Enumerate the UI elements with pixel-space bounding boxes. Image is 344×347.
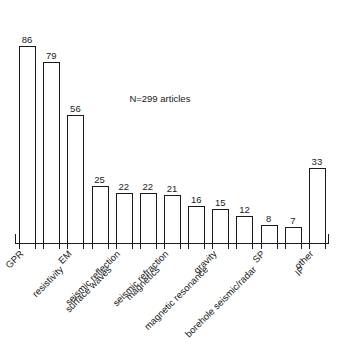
value-label-magnetics: 22 — [143, 181, 154, 192]
bar-resistivity — [44, 63, 60, 244]
bar-gravity — [213, 209, 229, 243]
value-label-other: 33 — [312, 156, 323, 167]
chart-svg: 867956252222211615128733 GPRresistivityE… — [0, 0, 344, 347]
category-label-sp: SP — [250, 248, 267, 265]
bar-magnetic-resonance — [189, 207, 205, 244]
value-label-surface-waves: 25 — [94, 174, 105, 185]
bar-gpr — [20, 47, 36, 244]
bars-group — [20, 47, 326, 244]
value-label-gravity: 15 — [215, 197, 226, 208]
bar-other — [310, 168, 326, 244]
bar-seismic-refraction — [165, 196, 181, 244]
bar-em — [68, 116, 84, 244]
value-label-seismic-refraction: 21 — [167, 183, 178, 194]
value-label-borehole-seismic-radar: 12 — [239, 204, 250, 215]
bar-ip — [286, 228, 302, 244]
value-label-em: 56 — [70, 103, 81, 114]
bar-magnetics — [141, 193, 157, 243]
value-label-resistivity: 79 — [46, 50, 57, 61]
bar-chart-figure: 867956252222211615128733 GPRresistivityE… — [0, 0, 344, 347]
value-label-ip: 7 — [290, 215, 295, 226]
bar-surface-waves — [93, 186, 109, 243]
category-labels-group: GPRresistivityEMsurface wavesseismic ref… — [3, 248, 315, 340]
value-label-sp: 8 — [266, 213, 271, 224]
category-label-other: other — [292, 248, 315, 271]
value-label-seismic-reflection: 22 — [118, 181, 129, 192]
category-label-resistivity: resistivity — [30, 264, 66, 300]
bar-borehole-seismic-radar — [237, 216, 253, 243]
value-label-magnetic-resonance: 16 — [191, 194, 202, 205]
category-label-em: EM — [56, 248, 74, 266]
annotation-group: N=299 articles — [129, 93, 190, 104]
chart-annotation-0: N=299 articles — [129, 93, 190, 104]
bar-seismic-reflection — [117, 193, 133, 243]
bar-sp — [262, 225, 278, 243]
category-label-gpr: GPR — [3, 248, 25, 270]
value-label-gpr: 86 — [22, 34, 33, 45]
